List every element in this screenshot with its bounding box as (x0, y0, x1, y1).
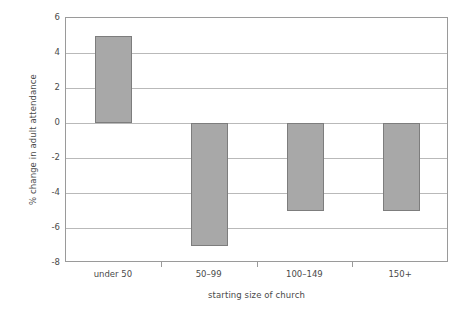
bars-layer (66, 18, 447, 261)
y-axis-tick-label: -2 (40, 151, 60, 163)
bar-slot (162, 18, 258, 261)
y-axis-tick-label: -8 (40, 256, 60, 268)
bar-slot (66, 18, 162, 261)
bar[interactable] (191, 123, 228, 246)
y-axis-tick-label: 4 (40, 46, 60, 58)
y-axis-tick-label: 6 (40, 11, 60, 23)
bar[interactable] (287, 123, 324, 211)
bar[interactable] (383, 123, 420, 211)
bar-slot (258, 18, 354, 261)
y-axis-tick-label: -4 (40, 186, 60, 198)
x-axis-title: starting size of church (65, 290, 448, 300)
plot-area (65, 17, 448, 262)
x-axis-tick-label: under 50 (65, 267, 161, 281)
x-axis-tick-labels: under 5050–99100–149150+ (65, 267, 448, 281)
y-axis-tick-label: 0 (40, 116, 60, 128)
y-axis-tick-label: -6 (40, 221, 60, 233)
y-axis-tick-labels: 6420-2-4-6-8 (40, 17, 60, 262)
x-axis-tick-label: 150+ (352, 267, 448, 281)
bar-chart-figure: % change in adult attendance 6420-2-4-6-… (0, 0, 469, 313)
bar[interactable] (95, 36, 132, 124)
bar-slot (353, 18, 449, 261)
x-axis-tick-label: 100–149 (257, 267, 353, 281)
y-axis-title: % change in adult attendance (26, 17, 40, 262)
x-axis-tick-label: 50–99 (161, 267, 257, 281)
y-axis-tick-label: 2 (40, 81, 60, 93)
